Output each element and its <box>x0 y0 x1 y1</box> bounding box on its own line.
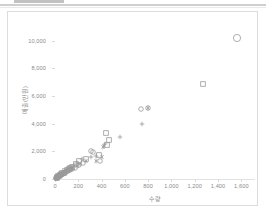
x-tick-label: 1,600 <box>234 183 249 189</box>
x-tick-label: 0 <box>53 183 56 189</box>
data-point-plus <box>57 171 64 178</box>
x-tick <box>171 179 172 182</box>
data-point-asterisk <box>101 143 108 150</box>
data-point-asterisk <box>98 153 105 160</box>
header-divider <box>0 4 266 6</box>
data-point-plus <box>64 166 71 173</box>
data-point-plus <box>138 120 145 127</box>
data-point-plus <box>78 156 85 163</box>
data-point-asterisk <box>70 164 77 171</box>
data-point-asterisk <box>73 163 80 170</box>
y-tick-label: 6,000 <box>32 93 47 99</box>
data-point-square <box>83 156 90 163</box>
plot-area <box>55 27 253 179</box>
y-tick <box>52 179 55 180</box>
x-tick <box>125 179 126 182</box>
chart-container: 02004006008001,0001,2001,4001,600 02,000… <box>7 11 258 206</box>
data-point-circle <box>55 173 62 180</box>
x-tick <box>241 179 242 182</box>
data-point-square <box>58 171 65 178</box>
x-tick <box>55 179 56 182</box>
x-tick <box>195 179 196 182</box>
data-point-circle <box>65 168 72 175</box>
data-point-asterisk <box>93 157 100 164</box>
data-point-plus <box>54 173 61 180</box>
data-point-plus <box>66 165 73 172</box>
x-tick-label: 400 <box>97 183 107 189</box>
data-point-plus <box>58 170 65 177</box>
x-tick <box>78 179 79 182</box>
x-tick <box>102 179 103 182</box>
x-tick <box>218 179 219 182</box>
y-tick-label: 8,000 <box>32 65 47 71</box>
data-point-circle <box>232 33 241 42</box>
data-point-asterisk <box>59 171 66 178</box>
window-tab-bar <box>14 0 64 3</box>
data-point-circle <box>97 158 104 165</box>
x-tick-label: 800 <box>143 183 153 189</box>
data-point-plus <box>92 152 99 159</box>
data-point-square <box>65 166 72 173</box>
data-point-plus <box>71 162 78 169</box>
y-tick-label: 10,000 <box>28 38 46 44</box>
data-point-plus <box>53 175 60 182</box>
data-point-plus <box>56 172 63 179</box>
data-point-square <box>56 172 63 179</box>
header-divider-secondary <box>0 7 266 8</box>
data-point-circle <box>90 149 97 156</box>
data-point-square <box>55 173 62 180</box>
data-point-asterisk <box>62 169 69 176</box>
x-axis-title: 수량 <box>149 194 161 203</box>
data-point-circle <box>58 172 65 179</box>
data-point-square <box>59 170 66 177</box>
data-point-plus <box>102 140 109 147</box>
data-point-square <box>200 80 207 87</box>
x-tick-label: 1,000 <box>164 183 179 189</box>
data-point-square <box>67 165 74 172</box>
data-point-circle <box>137 105 144 112</box>
data-point-circle <box>60 170 67 177</box>
data-point-asterisk <box>58 171 65 178</box>
data-point-asterisk <box>68 166 75 173</box>
data-point-circle <box>61 170 68 177</box>
data-point-circle <box>63 169 70 176</box>
data-point-asterisk <box>55 173 62 180</box>
data-point-square <box>106 137 113 144</box>
data-point-asterisk <box>99 144 106 151</box>
data-point-square <box>62 168 69 175</box>
data-point-plus <box>55 173 62 180</box>
data-point-square <box>63 167 70 174</box>
data-point-plus <box>68 164 75 171</box>
x-tick-label: 1,400 <box>211 183 226 189</box>
data-point-plus <box>59 169 66 176</box>
data-point-plus <box>74 160 81 167</box>
x-axis-line <box>55 179 255 180</box>
data-point-asterisk <box>56 172 63 179</box>
data-point-circle <box>53 175 60 182</box>
data-point-square <box>103 130 110 137</box>
y-tick-label: 4,000 <box>32 121 47 127</box>
y-axis-title: 매출(만원) <box>20 86 29 114</box>
data-point-asterisk <box>83 158 90 165</box>
x-tick-label: 200 <box>73 183 83 189</box>
data-point-circle <box>56 173 63 180</box>
x-tick-label: 600 <box>120 183 130 189</box>
data-point-plus <box>61 169 68 176</box>
data-point-asterisk <box>77 161 84 168</box>
data-point-square <box>69 163 76 170</box>
y-tick-label: 2,000 <box>32 148 47 154</box>
data-point-circle <box>80 159 87 166</box>
data-point-circle <box>87 148 94 155</box>
data-point-circle <box>67 167 74 174</box>
data-point-square <box>61 169 68 176</box>
y-tick-label: 0 <box>43 176 46 182</box>
data-point-circle <box>57 172 64 179</box>
data-point-asterisk <box>145 105 152 112</box>
data-point-circle <box>69 166 76 173</box>
data-point-asterisk <box>65 167 72 174</box>
x-tick-label: 1,200 <box>188 183 203 189</box>
data-point-circle <box>76 162 83 169</box>
data-point-plus <box>87 154 94 161</box>
chart-screenshot: 02004006008001,0001,2001,4001,600 02,000… <box>0 0 266 214</box>
data-point-square <box>57 172 64 179</box>
